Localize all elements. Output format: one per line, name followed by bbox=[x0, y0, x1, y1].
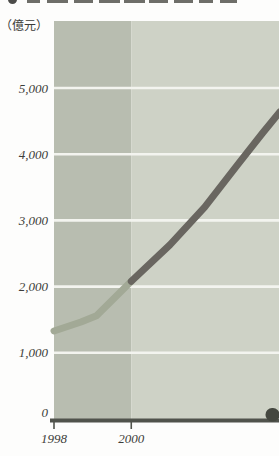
x-tick-label: 2000 bbox=[118, 431, 145, 446]
axis-end-cap bbox=[266, 408, 280, 422]
line-chart: 01,0002,0003,0004,0005,00019982000 bbox=[0, 0, 279, 456]
chart-figure: （億元） 01,0002,0003,0004,0005,00019982000 bbox=[0, 0, 279, 456]
y-tick-label: 3,000 bbox=[18, 213, 49, 228]
y-tick-label: 2,000 bbox=[19, 279, 49, 294]
y-tick-label: 1,000 bbox=[19, 345, 49, 360]
y-tick-label: 5,000 bbox=[19, 81, 49, 96]
y-tick-label: 0 bbox=[42, 405, 49, 420]
x-tick-label: 1998 bbox=[41, 431, 68, 446]
y-tick-label: 4,000 bbox=[19, 147, 49, 162]
